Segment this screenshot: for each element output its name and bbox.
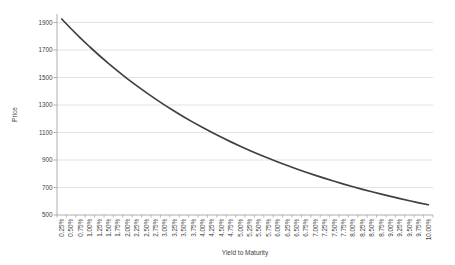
x-tick-label: 7.25%	[321, 219, 328, 237]
x-axis-title: Yield to Maturity	[222, 249, 269, 257]
x-tick-label: 2.25%	[133, 219, 140, 237]
y-tick-label: 1700	[38, 46, 53, 53]
x-tick-label: 1.75%	[114, 219, 121, 237]
x-tick-label: 7.75%	[340, 219, 347, 237]
x-tick-label: 3.75%	[190, 219, 197, 237]
x-tick-label: 3.00%	[161, 219, 168, 237]
x-tick-label: 0.75%	[77, 219, 84, 237]
x-tick-label: 5.00%	[237, 219, 244, 237]
y-axis-title: Price	[11, 107, 18, 122]
x-tick-label: 6.25%	[284, 219, 291, 237]
y-tick-label: 1100	[39, 129, 53, 136]
x-tick-label: 0.50%	[67, 219, 74, 237]
x-tick-label: 9.00%	[387, 219, 394, 237]
x-tick-label: 5.25%	[246, 219, 253, 237]
x-tick-label: 6.75%	[302, 219, 309, 237]
x-tick-label: 0.25%	[58, 219, 65, 237]
x-tick-label: 9.50%	[406, 219, 413, 237]
price-curve	[62, 19, 429, 205]
y-tick-label: 500	[42, 211, 53, 218]
y-tick-label: 1900	[38, 19, 53, 26]
y-tick-label: 1500	[38, 74, 53, 81]
x-tick-label: 1.25%	[96, 219, 103, 237]
y-tick-label: 1300	[38, 101, 53, 108]
y-tick-label: 900	[42, 156, 53, 163]
x-tick-label: 8.00%	[349, 219, 356, 237]
x-tick-label: 10.00%	[425, 219, 432, 241]
chart-canvas: 50070090011001300150017001900 0.25%0.50%…	[0, 0, 455, 265]
x-tick-label: 6.00%	[274, 219, 281, 237]
x-tick-label: 8.75%	[378, 219, 385, 237]
gridlines	[57, 23, 433, 188]
x-tick-label: 4.00%	[199, 219, 206, 237]
y-tick-label: 700	[42, 184, 53, 191]
x-tick-label: 8.50%	[368, 219, 375, 237]
x-tick-label: 2.00%	[124, 219, 131, 237]
x-tick-label: 1.00%	[86, 219, 93, 237]
x-tick-label: 9.25%	[396, 219, 403, 237]
x-axis-tick-labels: 0.25%0.50%0.75%1.00%1.25%1.50%1.75%2.00%…	[58, 219, 432, 241]
x-tick-label: 2.50%	[143, 219, 150, 237]
x-tick-label: 4.75%	[227, 219, 234, 237]
x-tick-label: 7.00%	[312, 219, 319, 237]
x-tick-label: 3.25%	[171, 219, 178, 237]
axes	[54, 14, 434, 218]
x-tick-label: 8.25%	[359, 219, 366, 237]
x-tick-label: 1.50%	[105, 219, 112, 237]
x-tick-label: 5.50%	[255, 219, 262, 237]
y-axis-tick-labels: 50070090011001300150017001900	[38, 19, 53, 219]
x-tick-label: 7.50%	[331, 219, 338, 237]
x-tick-label: 2.75%	[152, 219, 159, 237]
x-tick-label: 4.25%	[208, 219, 215, 237]
x-tick-label: 3.50%	[180, 219, 187, 237]
price-yield-line-chart: 50070090011001300150017001900 0.25%0.50%…	[0, 0, 455, 265]
x-tick-label: 9.75%	[415, 219, 422, 237]
x-tick-label: 6.50%	[293, 219, 300, 237]
x-tick-label: 5.75%	[265, 219, 272, 237]
x-tick-label: 4.50%	[218, 219, 225, 237]
